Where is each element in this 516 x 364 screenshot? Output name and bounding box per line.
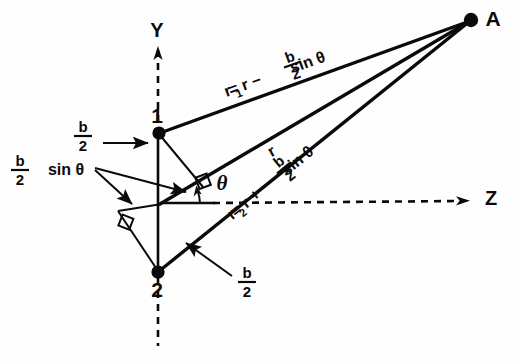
theta-arc-arrowhead [194, 186, 202, 197]
z-axis-label: Z [485, 187, 497, 209]
axis-group: Y Z [150, 19, 497, 346]
b-over-2-bottom-annotation: b 2 [186, 243, 256, 300]
b-over-2-bottom-leader-arrow [186, 243, 232, 276]
diagram-canvas: Y Z [0, 0, 516, 364]
right-angle-mark-upper [195, 174, 210, 189]
b-over-2-top-numerator: b [78, 118, 87, 135]
r1-equation-label: r 1 = r − b 2 sin θ [218, 37, 330, 106]
geometry-figure: Y Z [0, 0, 516, 364]
b-over-2-top-annotation: b 2 [74, 118, 148, 154]
b-over-2-sin-leader-upper [95, 168, 186, 192]
y-axis-label: Y [150, 19, 164, 41]
perpendicular-from-point2 [118, 211, 158, 271]
theta-label: θ [217, 171, 228, 195]
b-over-2-top-denominator: 2 [79, 137, 87, 154]
b-over-2-bottom-numerator: b [242, 264, 251, 281]
b-over-2-sin-theta-annotation: b 2 sin θ [11, 152, 186, 204]
r2-construction-stub [118, 204, 162, 211]
ray-r1 [160, 21, 470, 133]
b-over-2-sin-theta-text: sin θ [48, 161, 84, 178]
b-over-2-sin-numerator: b [15, 152, 24, 169]
b-over-2-top-fraction: b 2 [74, 118, 92, 154]
r1-sin-theta: sin θ [288, 48, 328, 76]
b-over-2-bottom-denominator: 2 [243, 283, 251, 300]
far-field-point-A-dot [464, 13, 478, 27]
source-point-2-label: 2 [151, 278, 163, 301]
z-axis-arrowhead [456, 196, 470, 205]
source-point-1-dot [152, 126, 165, 139]
source-point-1-label: 1 [151, 104, 163, 127]
b-over-2-sin-theta-fraction: b 2 sin θ [11, 152, 84, 188]
b-over-2-bottom-fraction: b 2 [238, 264, 256, 300]
ray-r [160, 21, 470, 204]
far-field-point-A-label: A [485, 7, 500, 30]
b-over-2-sin-denominator: 2 [16, 171, 24, 188]
y-axis-arrowhead [153, 46, 162, 60]
b-over-2-sin-leader-lower [95, 170, 132, 204]
